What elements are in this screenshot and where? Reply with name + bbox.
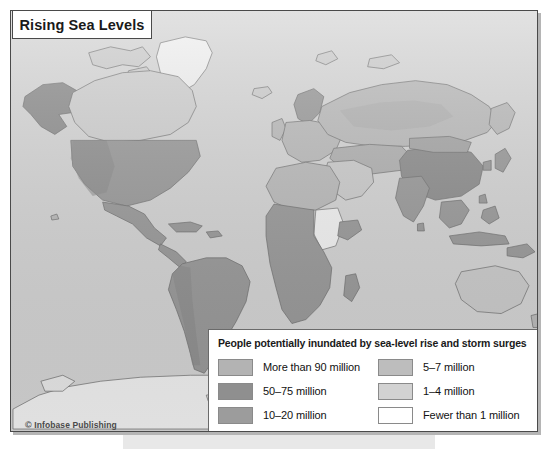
legend-swatch (218, 407, 253, 424)
legend-swatch (218, 383, 253, 400)
legend-swatch (378, 407, 413, 424)
legend-item-more-than-90-million[interactable]: More than 90 million (218, 359, 378, 376)
legend-item-10-20-million[interactable]: 10–20 million (218, 407, 378, 424)
legend-item-1-4-million[interactable]: 1–4 million (378, 383, 534, 400)
legend-item-label: 10–20 million (263, 409, 327, 421)
legend-item-fewer-than-1-million[interactable]: Fewer than 1 million (378, 407, 534, 424)
legend-items: More than 90 million 5–7 million 50–75 m… (218, 355, 532, 427)
legend-swatch (378, 359, 413, 376)
legend-item-label: 1–4 million (423, 385, 474, 397)
legend-item-label: Fewer than 1 million (423, 409, 519, 421)
frame-shadow-bottom (13, 432, 541, 435)
page-title: Rising Sea Levels (19, 17, 144, 33)
map-title-plate: Rising Sea Levels (12, 10, 152, 39)
copyright-symbol: © (25, 420, 32, 430)
frame-shadow-right (538, 13, 541, 435)
legend-swatch (218, 359, 253, 376)
legend-item-50-75-million[interactable]: 50–75 million (218, 383, 378, 400)
legend-swatch (378, 383, 413, 400)
legend-item-label: 5–7 million (423, 361, 474, 373)
copyright-text: Infobase Publishing (34, 420, 117, 430)
map-frame: © Infobase Publishing People potentially… (10, 10, 538, 432)
legend-item-label: 50–75 million (263, 385, 327, 397)
legend-title: People potentially inundated by sea-leve… (218, 337, 532, 349)
map-page: © Infobase Publishing People potentially… (0, 0, 548, 449)
copyright-notice: © Infobase Publishing (25, 420, 117, 430)
legend-item-label: More than 90 million (263, 361, 360, 373)
legend-item-5-7-million[interactable]: 5–7 million (378, 359, 534, 376)
map-legend: People potentially inundated by sea-leve… (208, 329, 538, 432)
